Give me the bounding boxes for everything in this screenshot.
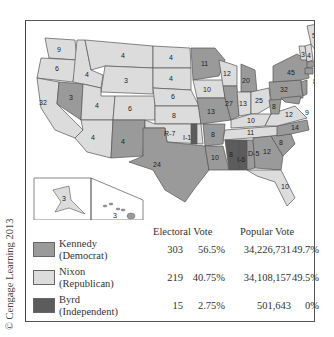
label-fl: 10 <box>281 183 289 190</box>
label-ne: 6 <box>171 93 175 100</box>
label-ks: 8 <box>172 112 176 119</box>
label-ut: 4 <box>95 102 99 109</box>
label-ky: 10 <box>247 117 255 124</box>
state-oklahoma-byrd <box>191 124 197 144</box>
state-colorado <box>113 96 155 120</box>
popular-percent: 49.5% <box>289 272 319 283</box>
candidate-label: Byrd(Independent) <box>59 294 118 318</box>
popular-vote-header: Popular Vote <box>240 226 294 237</box>
popular-votes: 34,108,157 <box>233 272 291 283</box>
label-in: 13 <box>239 100 247 107</box>
label-wi: 12 <box>223 70 231 77</box>
byrd-swatch <box>33 298 55 313</box>
kennedy-swatch <box>33 242 55 257</box>
label-sc: 8 <box>279 139 283 146</box>
electoral-votes: 303 <box>153 244 183 255</box>
label-nc: 14 <box>291 124 299 131</box>
label-ak: 3 <box>62 195 66 202</box>
label-ca: 32 <box>39 99 47 106</box>
state-montana <box>85 40 153 70</box>
label-ar: 8 <box>211 131 215 138</box>
label-pa: 32 <box>280 86 288 93</box>
label-ia: 10 <box>203 86 211 93</box>
label-az: 4 <box>91 134 95 141</box>
electoral-percent: 2.75% <box>185 300 225 311</box>
candidate-label: Nixon(Republican) <box>59 266 114 290</box>
state-new-mexico <box>111 120 145 158</box>
state-alabama-byrd <box>239 140 247 170</box>
label-nh: 4 <box>307 52 311 59</box>
label-ok-byrd: I-1 <box>183 134 191 141</box>
label-tx: 24 <box>153 161 161 168</box>
label-mt: 4 <box>121 52 125 59</box>
label-ny: 45 <box>287 69 295 76</box>
nixon-swatch <box>33 270 55 285</box>
state-connecticut <box>305 68 313 74</box>
label-ms: 8 <box>229 151 233 158</box>
state-hawaii <box>103 203 135 219</box>
label-id: 4 <box>85 71 89 78</box>
popular-percent: 0% <box>289 300 319 311</box>
label-oh: 25 <box>255 97 263 104</box>
electoral-map: 9 6 32 3 4 4 3 4 6 4 4 4 4 6 8 R-7 I-1 2… <box>25 20 314 220</box>
label-ga: 12 <box>263 148 271 155</box>
label-md: 9 <box>305 109 309 116</box>
label-al-dem: D-5 <box>248 150 259 157</box>
legend-row-nixon: Nixon(Republican) 219 40.75% 34,108,157 … <box>33 266 313 296</box>
popular-percent: 49.7% <box>289 244 319 255</box>
popular-votes: 34,226,731 <box>233 244 291 255</box>
label-vt: 3 <box>301 51 305 58</box>
electoral-vote-header: Electoral Vote <box>153 226 212 237</box>
candidate-label: Kennedy(Democrat) <box>59 238 107 262</box>
label-me: 5 <box>312 32 314 39</box>
inset-hawaii-box <box>91 178 143 220</box>
label-hi: 3 <box>113 212 117 219</box>
electoral-percent: 56.5% <box>185 244 225 255</box>
label-mn: 11 <box>201 60 208 67</box>
label-sd: 4 <box>169 75 173 82</box>
state-nebraska <box>153 88 199 106</box>
legend-row-kennedy: Kennedy(Democrat) 303 56.5% 34,226,731 4… <box>33 238 313 268</box>
electoral-votes: 15 <box>153 300 183 311</box>
state-washington <box>45 38 77 60</box>
label-wa: 9 <box>57 46 61 53</box>
popular-votes: 501,643 <box>233 300 291 311</box>
state-kansas <box>155 106 201 124</box>
label-co: 6 <box>128 105 132 112</box>
electoral-percent: 40.75% <box>185 272 225 283</box>
label-wv: 8 <box>272 103 276 110</box>
label-or: 6 <box>55 65 59 72</box>
label-wy: 3 <box>124 77 128 84</box>
label-va: 12 <box>285 111 293 118</box>
label-mi: 20 <box>242 77 250 84</box>
label-nv: 3 <box>69 94 73 101</box>
label-ct: 8 <box>313 78 314 85</box>
copyright-credit: © Cengage Learning 2013 <box>4 219 15 331</box>
state-alaska <box>53 186 85 214</box>
electoral-votes: 219 <box>153 272 183 283</box>
label-mo: 13 <box>207 108 215 115</box>
label-ok: R-7 <box>164 130 175 137</box>
label-al-byrd: I-6 <box>237 156 245 163</box>
label-la: 10 <box>211 154 219 161</box>
legend-row-byrd: Byrd(Independent) 15 2.75% 501,643 0% <box>33 294 313 324</box>
label-il: 27 <box>225 100 233 107</box>
label-tn: 11 <box>247 129 254 136</box>
label-nm: 4 <box>121 138 125 145</box>
label-nd: 4 <box>169 54 173 61</box>
